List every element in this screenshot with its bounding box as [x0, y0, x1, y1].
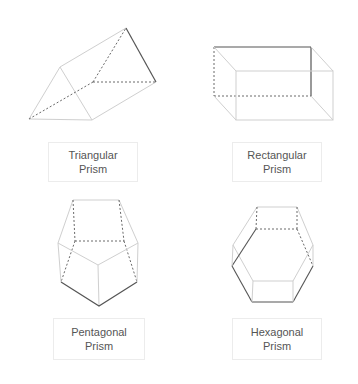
label-line-1: Triangular [68, 148, 117, 162]
pentagonal-prism-figure [58, 200, 138, 306]
label-line-1: Hexagonal [251, 325, 304, 339]
label-line-1: Pentagonal [71, 325, 127, 339]
rectangular-prism-figure [214, 47, 333, 120]
label-hexagonal-prism: Hexagonal Prism [232, 318, 322, 360]
label-line-2: Prism [263, 339, 291, 353]
label-line-2: Prism [79, 162, 107, 176]
hexagonal-prism-figure [232, 207, 313, 302]
label-triangular-prism: Triangular Prism [48, 142, 138, 182]
label-line-2: Prism [85, 339, 113, 353]
label-line-1: Rectangular [247, 148, 306, 162]
triangular-prism-figure [29, 28, 156, 120]
label-pentagonal-prism: Pentagonal Prism [53, 318, 145, 360]
label-line-2: Prism [263, 162, 291, 176]
label-rectangular-prism: Rectangular Prism [232, 142, 322, 182]
